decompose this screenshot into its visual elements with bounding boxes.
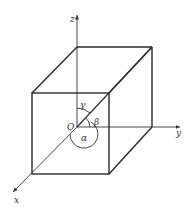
diagonal-vector bbox=[77, 47, 152, 127]
beta-label: β bbox=[93, 117, 99, 127]
top-left-connector bbox=[32, 47, 77, 93]
origin-label: O bbox=[67, 122, 75, 132]
y-axis-label: y bbox=[175, 128, 182, 138]
gamma-label: γ bbox=[80, 100, 86, 110]
alpha-label: α bbox=[81, 133, 87, 143]
x-axis bbox=[13, 127, 77, 192]
x-axis-label: x bbox=[14, 195, 19, 205]
bottom-right-connector bbox=[109, 127, 152, 174]
beta-arc bbox=[86, 118, 90, 127]
z-axis-label: z bbox=[69, 14, 75, 24]
cube-diagram: z y x O γ β α bbox=[0, 0, 194, 210]
